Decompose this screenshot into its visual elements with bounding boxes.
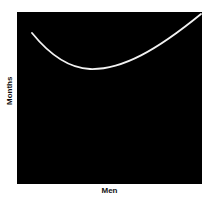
plot-area — [17, 12, 202, 184]
y-axis-label: Months — [5, 91, 14, 105]
x-axis-label: Men — [17, 186, 202, 195]
curve-line — [17, 12, 202, 184]
